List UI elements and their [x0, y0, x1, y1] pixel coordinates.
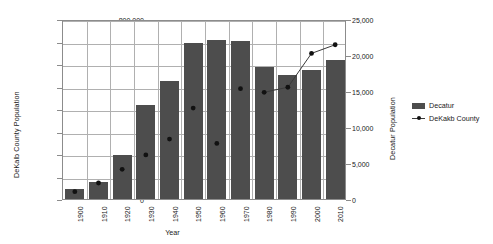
- chart-container: DeKalb County Population Decatur Populat…: [0, 0, 493, 244]
- y-axis-left-title: DeKalb County Population: [12, 91, 21, 178]
- y-axis-right-tick-label: 20,000: [352, 53, 392, 60]
- y-axis-left-tick-mark: [57, 200, 62, 201]
- y-axis-right-tick-mark: [346, 164, 351, 165]
- line-segment: [264, 87, 288, 92]
- x-axis-tick-label: 1920: [124, 206, 131, 222]
- x-axis-title: Year: [0, 228, 345, 237]
- line-segment: [312, 45, 336, 54]
- y-axis-right-tick-mark: [346, 20, 351, 21]
- y-axis-right-tick-label: 25,000: [352, 17, 392, 24]
- legend-label-dekalb-county: DeKakb County: [429, 114, 479, 123]
- data-point-marker[interactable]: [191, 106, 196, 111]
- data-point-marker[interactable]: [96, 181, 101, 186]
- data-point-marker[interactable]: [214, 141, 219, 146]
- x-axis-tick-label: 1960: [219, 206, 226, 222]
- x-axis-tick-label: 1990: [290, 206, 297, 222]
- x-axis-tick-label: 1980: [266, 206, 273, 222]
- data-point-marker[interactable]: [333, 42, 338, 47]
- legend-item-decatur[interactable]: Decatur: [412, 99, 479, 112]
- data-point-marker[interactable]: [167, 137, 172, 142]
- line-marker-swatch-icon: [412, 115, 425, 122]
- line-series-dekalb-county: [63, 21, 345, 199]
- y-axis-right-tick-mark: [346, 200, 351, 201]
- data-point-marker[interactable]: [120, 167, 125, 172]
- y-axis-right-tick-label: 10,000: [352, 125, 392, 132]
- x-axis-tick-label: 1950: [195, 206, 202, 222]
- y-axis-right-tick-mark: [346, 92, 351, 93]
- data-point-marker[interactable]: [72, 189, 77, 194]
- x-axis-tick-label: 2010: [337, 206, 344, 222]
- line-segment: [288, 53, 312, 87]
- x-axis-tick-label: 1940: [172, 206, 179, 222]
- y-axis-right-tick-label: 15,000: [352, 89, 392, 96]
- legend-label-decatur: Decatur: [429, 101, 454, 110]
- y-axis-right-tick-label: 5,000: [352, 161, 392, 168]
- data-point-marker[interactable]: [309, 51, 314, 56]
- y-axis-right-tick-label: 0: [352, 197, 392, 204]
- y-axis-right-tick-mark: [346, 128, 351, 129]
- data-point-marker[interactable]: [143, 153, 148, 158]
- bar-swatch-icon: [412, 103, 425, 109]
- data-point-marker[interactable]: [262, 90, 267, 95]
- x-axis-tick-label: 2000: [314, 206, 321, 222]
- chart-legend: Decatur DeKakb County: [412, 99, 479, 125]
- plot-area: [62, 20, 346, 200]
- legend-item-dekalb-county[interactable]: DeKakb County: [412, 112, 479, 125]
- x-axis-tick-label: 1910: [101, 206, 108, 222]
- x-axis-tick-label: 1930: [148, 206, 155, 222]
- x-axis-tick-label: 1970: [243, 206, 250, 222]
- data-point-marker[interactable]: [238, 86, 243, 91]
- y-axis-right-tick-mark: [346, 56, 351, 57]
- x-axis-tick-label: 1900: [77, 206, 84, 222]
- data-point-marker[interactable]: [285, 85, 290, 90]
